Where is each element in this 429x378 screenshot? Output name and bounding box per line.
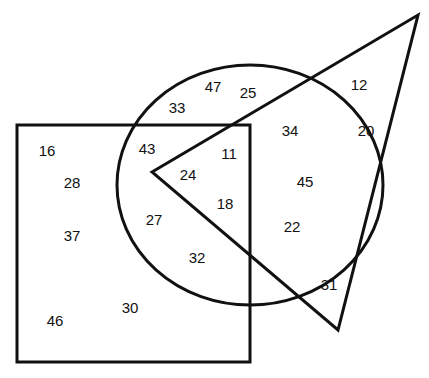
number-label: 31 xyxy=(321,277,338,292)
number-label: 46 xyxy=(47,313,64,328)
number-label: 22 xyxy=(284,219,301,234)
number-label: 11 xyxy=(221,146,237,161)
number-label: 37 xyxy=(64,228,81,243)
number-label: 16 xyxy=(39,143,56,158)
number-label: 45 xyxy=(297,174,314,189)
number-label: 34 xyxy=(282,123,299,138)
number-label: 47 xyxy=(205,79,222,94)
number-label: 33 xyxy=(169,100,186,115)
number-label: 43 xyxy=(139,141,156,156)
number-label: 30 xyxy=(122,300,139,315)
number-label: 28 xyxy=(64,175,81,190)
number-label: 32 xyxy=(189,250,206,265)
number-label: 27 xyxy=(146,212,163,227)
number-label: 12 xyxy=(351,77,368,92)
number-label: 25 xyxy=(240,85,257,100)
number-label: 20 xyxy=(358,123,375,138)
number-label: 24 xyxy=(180,167,197,182)
number-label: 18 xyxy=(217,196,234,211)
